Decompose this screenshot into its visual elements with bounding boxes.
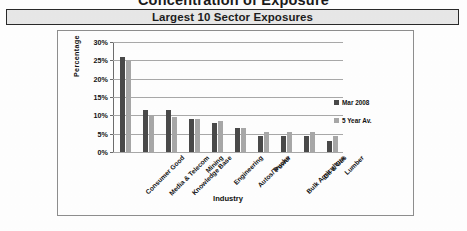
bar-current	[258, 136, 263, 153]
y-axis-tick	[110, 60, 113, 61]
y-axis-tick-label: 30%	[94, 38, 108, 47]
bar-group	[281, 42, 292, 152]
bar-average	[195, 119, 200, 152]
bar-current	[189, 119, 194, 152]
subtitle-banner: Largest 10 Sector Exposures	[6, 9, 459, 25]
bar-current	[327, 141, 332, 152]
bar-group	[304, 42, 315, 152]
bar-average	[218, 121, 223, 152]
y-axis-tick	[110, 115, 113, 116]
bars-layer	[114, 42, 343, 152]
bar-average	[333, 136, 338, 153]
chart-frame: Percentage 0%5%10%15%20%25%30% Consumer …	[57, 30, 414, 216]
bar-group	[258, 42, 269, 152]
bar-current	[166, 110, 171, 152]
x-axis-category-label: Power	[273, 154, 292, 173]
x-axis-title: Industry	[58, 194, 398, 203]
bar-average	[264, 132, 269, 152]
y-axis-tick	[110, 97, 113, 98]
bar-average	[149, 115, 154, 152]
y-axis-tick-label: 0%	[98, 148, 108, 157]
bar-current	[212, 123, 217, 152]
y-axis-tick-label: 20%	[94, 74, 108, 83]
y-axis-tick	[110, 42, 113, 43]
bar-group	[327, 42, 338, 152]
gridline	[113, 152, 343, 153]
legend-swatch-icon	[334, 100, 339, 105]
bar-group	[120, 42, 131, 152]
y-axis-tick-label: 15%	[94, 93, 108, 102]
legend-label: 5 Year Av.	[342, 117, 372, 124]
bar-group	[235, 42, 246, 152]
bar-current	[235, 128, 240, 152]
bar-group	[166, 42, 177, 152]
bar-average	[172, 117, 177, 152]
bar-group	[189, 42, 200, 152]
bar-average	[310, 132, 315, 152]
chart-legend: Mar 20085 Year Av.	[334, 99, 410, 135]
bar-average	[126, 60, 131, 152]
x-axis-category-label: Oil & Gas	[322, 154, 348, 180]
y-axis-tick-label: 5%	[98, 129, 108, 138]
bar-group	[212, 42, 223, 152]
y-axis-tick	[110, 134, 113, 135]
document-title: Concentration of Exposure	[0, 0, 467, 9]
plot-area: 0%5%10%15%20%25%30%	[113, 42, 343, 152]
legend-item: 5 Year Av.	[334, 117, 410, 124]
y-axis-tick-label: 10%	[94, 111, 108, 120]
bar-current	[120, 57, 125, 152]
y-axis-tick	[110, 152, 113, 153]
bar-group	[143, 42, 154, 152]
bar-average	[287, 132, 292, 152]
bar-average	[241, 128, 246, 152]
subtitle-text: Largest 10 Sector Exposures	[152, 11, 313, 23]
bar-current	[304, 136, 309, 153]
legend-label: Mar 2008	[342, 99, 369, 106]
legend-item: Mar 2008	[334, 99, 410, 106]
y-axis-tick-label: 25%	[94, 56, 108, 65]
y-axis-title: Percentage	[72, 35, 81, 77]
bar-current	[281, 136, 286, 153]
bar-current	[143, 110, 148, 152]
y-axis-tick	[110, 79, 113, 80]
legend-swatch-icon	[334, 118, 339, 123]
